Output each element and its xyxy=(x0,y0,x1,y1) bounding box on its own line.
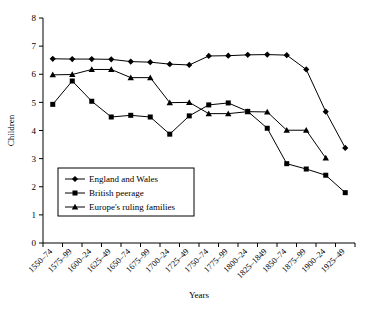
data-point-diamond xyxy=(323,109,329,115)
data-point-square xyxy=(128,113,133,118)
series-line xyxy=(53,55,346,148)
x-axis-title: Years xyxy=(189,290,210,300)
data-point-square xyxy=(304,167,309,172)
data-point-square xyxy=(187,113,192,118)
data-point-diamond xyxy=(342,145,348,151)
y-axis-tick-label: 6 xyxy=(32,69,37,79)
data-point-square xyxy=(265,126,270,131)
legend: England and WalesBritish peerageEurope's… xyxy=(58,168,194,216)
data-point-square xyxy=(343,190,348,195)
data-point-square xyxy=(206,102,211,107)
data-point-square xyxy=(148,115,153,120)
data-point-diamond xyxy=(225,53,231,59)
y-axis-tick-label: 2 xyxy=(32,182,37,192)
data-point-diamond xyxy=(89,56,95,62)
y-axis-tick-label: 0 xyxy=(32,238,37,248)
data-point-diamond xyxy=(167,61,173,67)
legend-label-2: British peerage xyxy=(89,188,144,198)
data-point-diamond xyxy=(128,58,134,64)
legend-label-3: Europe's ruling families xyxy=(89,202,176,212)
y-axis-title: Children xyxy=(6,114,16,146)
legend-label-1: England and Wales xyxy=(89,174,159,184)
data-point-diamond xyxy=(147,59,153,65)
line-chart: 0123456781550–741575–991600–241625–49165… xyxy=(0,0,371,312)
data-point-square xyxy=(50,102,55,107)
data-point-diamond xyxy=(245,52,251,58)
data-point-square xyxy=(323,173,328,178)
data-point-square xyxy=(70,79,75,84)
y-axis-tick-label: 8 xyxy=(32,13,37,23)
data-point-square xyxy=(284,161,289,166)
data-point-square xyxy=(226,100,231,105)
data-point-square xyxy=(89,99,94,104)
legend-marker-square xyxy=(73,191,78,196)
chart-container: 0123456781550–741575–991600–241625–49165… xyxy=(0,0,371,312)
y-axis-tick-label: 1 xyxy=(32,210,37,220)
data-point-diamond xyxy=(186,62,192,68)
data-point-square xyxy=(109,115,114,120)
series-1 xyxy=(50,51,349,151)
data-point-diamond xyxy=(108,56,114,62)
data-point-square xyxy=(167,132,172,137)
y-axis-tick-label: 4 xyxy=(32,126,37,136)
data-point-diamond xyxy=(206,53,212,59)
y-axis-tick-label: 5 xyxy=(32,98,37,108)
y-axis-tick-label: 3 xyxy=(32,154,37,164)
data-point-diamond xyxy=(264,51,270,57)
data-point-diamond xyxy=(50,56,56,62)
data-point-diamond xyxy=(69,56,75,62)
y-axis-tick-label: 7 xyxy=(32,41,37,51)
